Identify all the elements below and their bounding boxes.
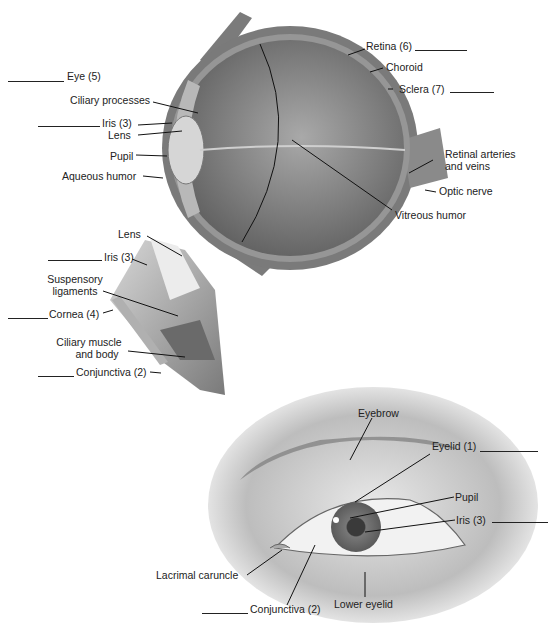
label-pupil-top: Pupil [110,150,133,162]
label-retinal-veins: and veins [445,160,490,172]
label-iris-detail: Iris (3) [104,251,134,263]
answer-blank-iris-external[interactable] [492,522,548,523]
label-vitreous-humor: Vitreous humor [395,209,466,221]
label-lens-top: Lens [108,129,131,141]
label-ciliary-muscle: Ciliary muscle [48,336,130,348]
answer-blank-eyelid[interactable] [480,451,538,452]
label-optic-nerve: Optic nerve [439,185,493,197]
label-ciliary-processes: Ciliary processes [60,94,150,106]
answer-blank-sclera[interactable] [450,92,494,93]
external-eye-view [208,387,538,623]
label-cornea: Cornea (4) [49,308,99,320]
label-lacrimal-caruncle: Lacrimal caruncle [156,569,238,581]
label-aqueous-humor: Aqueous humor [62,170,136,182]
label-choroid: Choroid [386,61,423,73]
answer-blank-cornea[interactable] [8,318,48,319]
label-iris-top: Iris (3) [102,117,132,129]
label-suspensory: Suspensory [44,273,106,285]
label-conjunctiva-external: Conjunctiva (2) [250,603,321,615]
label-retinal-arteries: Retinal arteries [445,148,516,160]
label-conjunctiva-detail: Conjunctiva (2) [76,366,147,378]
answer-blank-retina[interactable] [415,50,467,51]
label-eyebrow: Eyebrow [358,407,399,419]
label-ligaments: ligaments [44,285,106,297]
label-iris-external: Iris (3) [456,514,486,526]
answer-blank-conjunctiva-external[interactable] [202,613,248,614]
answer-blank-iris-top[interactable] [38,126,100,127]
answer-blank-iris-detail[interactable] [48,260,102,261]
label-eye: Eye (5) [67,70,101,82]
label-ciliary-body: and body [56,348,138,360]
label-eyelid: Eyelid (1) [432,440,476,452]
answer-blank-conjunctiva-detail[interactable] [38,376,74,377]
label-sclera: Sclera (7) [399,83,445,95]
answer-blank-eye[interactable] [8,81,64,82]
label-lens-detail: Lens [118,228,141,240]
label-retina: Retina (6) [366,40,412,52]
label-pupil-external: Pupil [455,491,478,503]
label-lower-eyelid: Lower eyelid [334,598,393,610]
